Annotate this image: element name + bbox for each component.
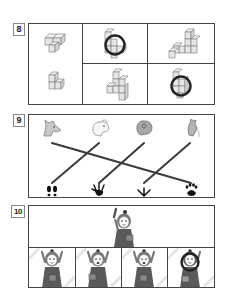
frog-print-icon[interactable] (91, 184, 107, 197)
divider (82, 63, 214, 64)
matching-panel (28, 114, 215, 198)
paw-print-icon[interactable] (184, 183, 199, 197)
cube-panel (28, 23, 215, 105)
hoof-print-icon[interactable] (45, 185, 59, 197)
divider (147, 24, 148, 104)
girl-option-3 (128, 248, 160, 287)
cube-figure-right-bottom[interactable] (167, 67, 197, 103)
bird-print-icon[interactable] (136, 184, 152, 197)
cube-figure-left-bottom[interactable] (47, 70, 69, 98)
option-cell-4[interactable] (168, 248, 214, 287)
cube-figure-right-top[interactable] (165, 27, 203, 61)
divider (82, 24, 83, 104)
question-number-8: 8 (13, 23, 25, 36)
question-number-10: 10 (11, 205, 25, 218)
find-difference-panel (28, 205, 215, 288)
connection-frog-frogprint (99, 143, 144, 183)
question-number-9: 9 (13, 114, 25, 127)
cube-figure-left-top[interactable] (43, 32, 69, 54)
girl-waving-reference (107, 207, 137, 248)
cube-figure-mid-top[interactable] (101, 27, 131, 61)
option-cell-2[interactable] (76, 248, 121, 287)
option-cell-3[interactable] (122, 248, 167, 287)
girl-option-2 (82, 248, 114, 287)
girl-option-1 (36, 248, 68, 287)
cube-figure-mid-bottom[interactable] (101, 67, 135, 103)
option-cell-1[interactable] (29, 248, 75, 287)
girl-option-4 (174, 248, 208, 287)
